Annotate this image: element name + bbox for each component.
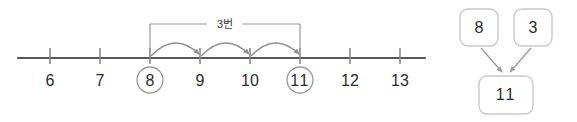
tick-label-9: 9	[196, 72, 205, 89]
tick-label-11: 11	[290, 72, 310, 89]
hop-arc-10-to-11	[251, 43, 299, 56]
tick-label-12: 12	[341, 72, 359, 89]
hop-arc-9-to-10	[201, 43, 249, 56]
number-line-figure: 6 7 8 9 10 11 12 13	[0, 0, 440, 122]
sum-value: 11	[496, 86, 517, 103]
tick-marks-group	[50, 48, 400, 64]
hop-arcs-group	[151, 43, 299, 56]
arrow-left-to-sum	[481, 48, 502, 72]
tick-label-6: 6	[46, 72, 55, 89]
tick-label-13: 13	[391, 72, 409, 89]
tick-label-7: 7	[96, 72, 105, 89]
tick-label-10: 10	[241, 72, 259, 89]
addend-right-value: 3	[529, 19, 538, 36]
tick-label-8: 8	[146, 72, 155, 89]
part-part-whole-diagram: 8 3 11	[437, 0, 577, 122]
hop-count-label: 3번	[217, 18, 233, 30]
arrow-right-to-sum	[510, 48, 531, 72]
addend-left-value: 8	[475, 19, 484, 36]
hop-arc-8-to-9	[151, 43, 199, 56]
worksheet-figure-canvas: 6 7 8 9 10 11 12 13	[0, 0, 577, 122]
